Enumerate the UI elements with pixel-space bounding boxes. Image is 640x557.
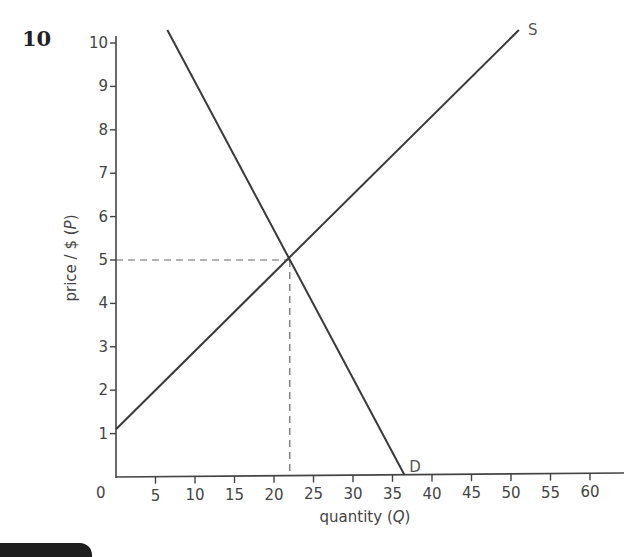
y-tick-label: 6 [98,208,108,226]
x-tick-label: 10 [185,486,204,504]
x-axis [116,473,624,477]
y-tick-label: 7 [98,164,108,182]
x-tick-label: 20 [264,486,283,504]
y-tick-label: 1 [98,425,108,443]
x-tick-label: 35 [383,485,402,503]
demand-curve [167,30,404,475]
y-tick-label: 3 [98,338,108,356]
y-tick-label: 5 [98,251,108,269]
supply-curve-label: S [528,21,538,39]
supply-curve [116,30,519,429]
y-tick-label: 2 [98,381,108,399]
x-tick-label: 60 [580,483,599,501]
x-tick-label: 50 [501,484,520,502]
x-tick-label: 25 [304,485,323,503]
origin-label: 0 [96,484,106,502]
y-tick-label: 10 [89,34,108,52]
y-tick-label: 9 [98,77,108,95]
x-tick-label: 30 [343,485,362,503]
x-tick-label: 40 [422,485,441,503]
x-ticks: 51015202530354045505560 [151,473,600,504]
x-tick-label: 55 [541,484,560,502]
equilibrium-guides [116,260,290,476]
curves: SD [116,21,537,476]
y-tick-label: 4 [98,294,108,312]
x-axis-title: quantity (Q) [320,508,411,526]
demand-curve-label: D [409,458,421,476]
y-ticks: 12345678910 [89,34,116,443]
y-tick-label: 8 [98,121,108,139]
x-tick-label: 45 [462,484,481,502]
page-tab-decoration [0,543,92,557]
x-tick-label: 5 [151,487,161,505]
x-tick-label: 15 [225,486,244,504]
y-axis-title: price / $ (P) [62,215,80,302]
